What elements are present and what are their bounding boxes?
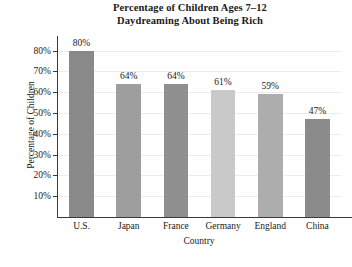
bar-series: 80%64%64%61%59%47%: [58, 36, 341, 217]
x-axis-tick-label: U.S.: [73, 221, 90, 231]
y-axis-tick: [53, 196, 57, 197]
bar-value-label: 47%: [309, 106, 326, 116]
y-axis-tick-label: 60%: [34, 87, 51, 97]
bar: [69, 51, 94, 217]
y-axis-tick: [53, 113, 57, 114]
chart-title-line-2: Daydreaming About Being Rich: [40, 15, 340, 28]
bar-value-label: 80%: [73, 38, 90, 48]
bar: [164, 84, 189, 217]
x-axis-tick-labels: U.S.JapanFranceGermanyEnglandChina: [58, 221, 341, 235]
y-axis-tick-label: 10%: [34, 191, 51, 201]
y-axis-tick-label: 80%: [34, 46, 51, 56]
y-axis-tick: [53, 155, 57, 156]
bar: [305, 119, 330, 217]
bar-group: 80%: [69, 36, 94, 217]
bar-group: 64%: [164, 36, 189, 217]
y-axis-tick-label: 20%: [34, 170, 51, 180]
bar-value-label: 61%: [214, 77, 231, 87]
x-axis-tick-label: China: [306, 221, 329, 231]
bar-group: 61%: [211, 36, 236, 217]
bar-group: 59%: [258, 36, 283, 217]
y-axis-tick-label: 40%: [34, 129, 51, 139]
bar-chart: Percentage of Children Ages 7–12 Daydrea…: [0, 0, 352, 267]
x-axis-title: Country: [57, 236, 341, 246]
x-axis-tick-label: Japan: [118, 221, 140, 231]
plot-area: 10%20%30%40%50%60%70%80% 80%64%64%61%59%…: [57, 36, 341, 218]
bar-group: 64%: [116, 36, 141, 217]
chart-title-line-1: Percentage of Children Ages 7–12: [40, 2, 340, 15]
bar-value-label: 59%: [262, 81, 279, 91]
x-axis-tick-label: England: [254, 221, 286, 231]
x-axis-tick-label: Germany: [205, 221, 240, 231]
x-axis-line: [57, 217, 352, 218]
x-axis-tick-label: France: [163, 221, 189, 231]
chart-title: Percentage of Children Ages 7–12 Daydrea…: [40, 2, 340, 27]
y-axis-tick-label: 30%: [34, 150, 51, 160]
y-axis-tick-label: 70%: [34, 66, 51, 76]
bar: [258, 94, 283, 217]
y-axis-tick: [53, 134, 57, 135]
y-axis-tick: [53, 175, 57, 176]
y-axis-tick-label: 50%: [34, 108, 51, 118]
bar: [116, 84, 141, 217]
bar-value-label: 64%: [167, 71, 184, 81]
y-axis-tick: [53, 92, 57, 93]
bar-group: 47%: [305, 36, 330, 217]
y-axis-tick: [53, 71, 57, 72]
y-axis-tick: [53, 51, 57, 52]
bar-value-label: 64%: [120, 71, 137, 81]
bar: [211, 90, 236, 217]
